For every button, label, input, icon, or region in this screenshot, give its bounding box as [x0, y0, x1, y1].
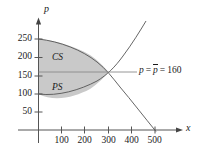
price-equals-1: = — [146, 65, 151, 75]
y-axis-arrow — [36, 18, 41, 25]
consumer-surplus-region — [39, 39, 109, 72]
price-equals-2: = — [160, 65, 165, 75]
price-value-160: 160 — [167, 65, 181, 75]
y-tick-label-100: 100 — [6, 89, 32, 99]
y-tick-label-50: 50 — [6, 107, 32, 117]
economics-surplus-figure: 250 200 150 100 50 100 200 300 400 500 p… — [0, 0, 200, 163]
price-symbol-p: p — [139, 65, 144, 75]
x-tick-label-500: 500 — [141, 136, 168, 146]
x-axis-arrow — [176, 127, 183, 132]
price-line-annotation: p=p=160 — [139, 66, 181, 76]
y-tick-label-250: 250 — [6, 34, 32, 44]
x-axis-label: x — [186, 123, 190, 133]
y-axis-label: p — [44, 4, 49, 14]
price-symbol-pbar: p — [153, 64, 158, 75]
x-tick-label-200: 200 — [71, 136, 98, 146]
y-tick-label-200: 200 — [6, 52, 32, 62]
consumer-surplus-label: CS — [52, 53, 63, 63]
y-tick-label-150: 150 — [6, 71, 32, 81]
producer-surplus-label: PS — [52, 83, 63, 93]
